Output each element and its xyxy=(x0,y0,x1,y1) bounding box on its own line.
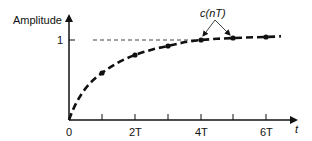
sample-point xyxy=(165,43,170,48)
x-tick-label-4T: 4T xyxy=(195,126,208,138)
annotation-arrow-left xyxy=(203,20,215,36)
x-ticks xyxy=(102,114,266,120)
sample-point xyxy=(99,70,104,75)
sample-point xyxy=(198,37,203,42)
sample-point xyxy=(230,35,235,40)
x-axis-label: t xyxy=(295,123,299,135)
step-response-figure: Amplitude 1 0 2T 4T 6T t c(nT) xyxy=(0,0,312,141)
x-tick-label-2T: 2T xyxy=(129,126,142,138)
response-curve xyxy=(69,36,281,120)
sample-points xyxy=(99,34,268,75)
y-axis-label: Amplitude xyxy=(13,14,62,26)
x-tick-label-6T: 6T xyxy=(260,126,273,138)
chart-canvas: Amplitude 1 0 2T 4T 6T t c(nT) xyxy=(0,0,312,141)
sample-point xyxy=(132,52,137,57)
y-tick-label-1: 1 xyxy=(57,34,63,46)
annotation-label: c(nT) xyxy=(200,7,226,19)
annotation-arrow-right xyxy=(215,20,230,35)
sample-point xyxy=(263,34,268,39)
x-tick-label-0: 0 xyxy=(66,126,72,138)
